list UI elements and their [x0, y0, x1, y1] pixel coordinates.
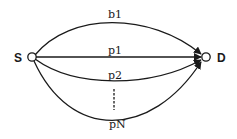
edge-label-p1: p1 [108, 44, 122, 57]
node-d-label: D [217, 51, 226, 65]
node-d-circle [202, 53, 210, 61]
node-s-circle [28, 53, 36, 61]
node-s-label: S [14, 51, 22, 65]
edge-label-p2: p2 [108, 69, 122, 82]
edge-label-b1: b1 [108, 8, 122, 21]
multipath-diagram: S D b1 p1 p2 pN [0, 0, 237, 139]
edge-label-pN: pN [109, 118, 126, 131]
